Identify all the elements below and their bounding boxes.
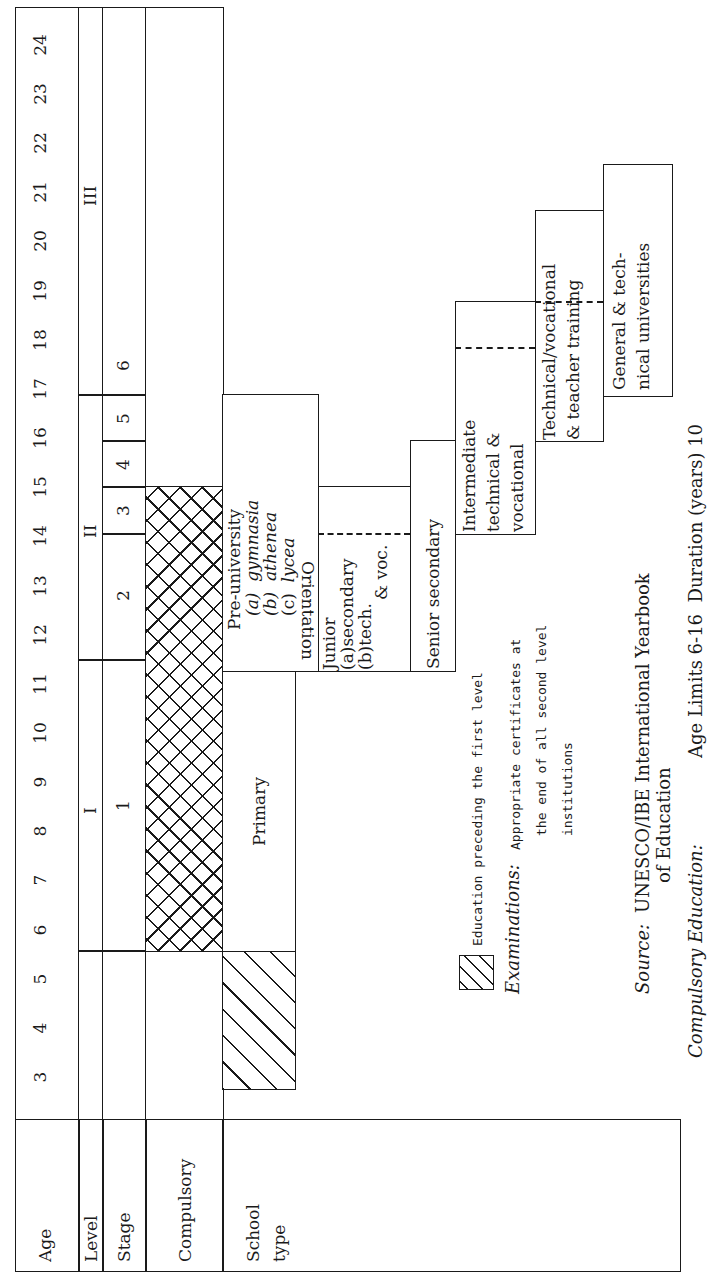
age-tick: 6 <box>30 915 50 945</box>
compulsory-education-value: Age Limits 6-16 Duration (years) 10 <box>686 424 705 758</box>
stage-2: 2 <box>114 590 133 601</box>
junior-dashed-divider <box>318 533 410 535</box>
row-label-stage: Stage <box>115 1212 134 1262</box>
row-label-compulsory: Compulsory <box>176 1159 195 1262</box>
primary-label: Primary <box>250 777 269 846</box>
age-tick: 14 <box>30 521 50 551</box>
universities-l1: General & tech- <box>610 253 629 390</box>
age-tick: 12 <box>30 620 50 650</box>
age-tick: 8 <box>30 816 50 846</box>
stage-row <box>102 7 147 1120</box>
intermediate-l1: Intermediate <box>460 420 479 532</box>
age-row <box>15 7 80 1120</box>
pre-university-c: (c) lycea <box>279 538 298 616</box>
age-tick: 23 <box>30 79 50 109</box>
age-tick: 19 <box>30 276 50 306</box>
age-tick: 13 <box>30 571 50 601</box>
age-tick: 4 <box>30 1013 50 1043</box>
age-tick: 5 <box>30 964 50 994</box>
source-line-1: UNESCO/IBE International Yearbook <box>633 573 652 913</box>
stage-1: 1 <box>114 800 133 811</box>
age-tick: 21 <box>30 177 50 207</box>
source-label: Source: <box>633 924 652 994</box>
stage-3: 3 <box>114 505 133 516</box>
intermediate-l3: vocational <box>508 443 527 532</box>
stage-5: 5 <box>114 413 133 424</box>
age-tick: 10 <box>30 718 50 748</box>
legend-pre-primary-swatch <box>459 955 494 990</box>
level-I: I <box>81 807 100 814</box>
row-label-school-type-2: type <box>270 1225 289 1262</box>
age-tick: 7 <box>30 865 50 895</box>
row-label-age: Age <box>36 1229 55 1262</box>
level-III: III <box>81 186 100 206</box>
age-tick: 3 <box>30 1062 50 1092</box>
age-tick: 18 <box>30 325 50 355</box>
age-tick: 22 <box>30 128 50 158</box>
education-system-diagram: Age Level Stage Compulsory School type 3… <box>0 0 717 1276</box>
compulsory-education-label: Compulsory Education: <box>686 844 705 1058</box>
examinations-label: Examinations: <box>503 864 522 994</box>
examinations-line-3: institutions <box>558 742 577 836</box>
technical-vocational-l2: & teacher training <box>564 280 583 440</box>
junior-b2: & voc. <box>372 545 391 600</box>
technical-vocational-l1: Technical/vocational <box>540 264 559 440</box>
level-row <box>78 7 104 1120</box>
row-label-school-type: School <box>244 1204 263 1262</box>
age-tick: 11 <box>30 669 50 699</box>
examinations-line-2: the end of all second level <box>532 625 551 836</box>
stage-4: 4 <box>114 459 133 470</box>
intermediate-dashed-divider <box>455 347 535 349</box>
stage-6: 6 <box>114 360 133 371</box>
compulsory-hatch <box>145 486 224 952</box>
universities-l2: nical universities <box>634 243 653 390</box>
intermediate-l2: technical & <box>484 433 503 532</box>
pre-primary-box <box>222 950 296 1090</box>
age-tick: 16 <box>30 423 50 453</box>
examinations-line-1: Appropriate certificates at <box>506 639 525 850</box>
age-tick: 17 <box>30 374 50 404</box>
junior-b: (b)tech. <box>356 603 375 670</box>
age-tick: 24 <box>30 30 50 60</box>
age-tick: 9 <box>30 767 50 797</box>
age-tick: 15 <box>30 472 50 502</box>
level-II: II <box>81 525 100 538</box>
orientation-label: Orientation <box>298 561 317 660</box>
source-line-2: of Education <box>654 767 673 883</box>
row-label-level: Level <box>82 1216 101 1262</box>
legend-pre-primary-label: Education preceding the first level <box>468 672 487 946</box>
age-tick: 20 <box>30 226 50 256</box>
senior-secondary-label: Senior secondary <box>424 519 443 669</box>
